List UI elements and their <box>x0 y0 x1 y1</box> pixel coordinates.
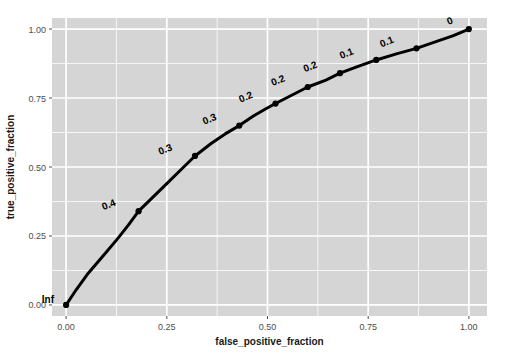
x-tick-label: 0.75 <box>359 322 377 332</box>
data-point <box>466 26 472 32</box>
data-point <box>236 123 242 129</box>
data-point <box>63 302 69 308</box>
data-point <box>135 208 141 214</box>
x-axis-title: false_positive_fraction <box>215 336 323 347</box>
x-tick-label: 0.25 <box>158 322 176 332</box>
y-tick-label: 0.75 <box>28 94 46 104</box>
y-tick-label: 0.25 <box>28 231 46 241</box>
y-axis-title: true_positive_fraction <box>5 115 16 219</box>
y-tick-label: 1.00 <box>28 25 46 35</box>
x-tick-label: 0.50 <box>259 322 277 332</box>
roc-curve-chart: 0.000.250.500.751.00 0.000.250.500.751.0… <box>0 0 506 358</box>
y-tick-label: 0.50 <box>28 163 46 173</box>
data-point <box>305 84 311 90</box>
data-point <box>272 100 278 106</box>
x-tick-label: 1.00 <box>460 322 478 332</box>
data-point <box>413 45 419 51</box>
chart-figure: 0.000.250.500.751.00 0.000.250.500.751.0… <box>0 0 506 358</box>
data-point <box>337 70 343 76</box>
x-tick-label: 0.00 <box>57 322 75 332</box>
data-point <box>192 153 198 159</box>
threshold-label: Inf <box>42 294 55 305</box>
data-point <box>373 57 379 63</box>
